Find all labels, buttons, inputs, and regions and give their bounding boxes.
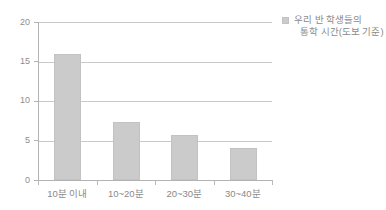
y-tick-label-5: 5 <box>0 136 30 145</box>
y-tick-label-15: 15 <box>0 57 30 66</box>
x-divider-4 <box>272 180 273 185</box>
x-tick-label-3: 30~40분 <box>214 188 273 200</box>
x-tick-label-1: 10~20분 <box>97 188 156 200</box>
x-divider-3 <box>214 180 215 185</box>
y-tick-label-10: 10 <box>0 96 30 105</box>
bar-chart: 20 15 10 5 0 10분 이내 10~20분 20~30분 30~40분 <box>0 0 386 210</box>
y-tick-label-0: 0 <box>0 176 30 185</box>
bar-category-2[interactable] <box>171 135 198 180</box>
bars-layer <box>38 22 272 180</box>
x-tick-label-2: 20~30분 <box>155 188 214 200</box>
chart-legend: 우리 반 학생들의 통학 시간(도보 기준) <box>282 14 384 38</box>
legend-label-line-1: 우리 반 학생들의 <box>294 14 384 26</box>
x-divider-2 <box>155 180 156 185</box>
bar-category-1[interactable] <box>113 122 140 180</box>
y-axis-labels: 20 15 10 5 0 <box>0 0 34 210</box>
x-axis-labels: 10분 이내 10~20분 20~30분 30~40분 <box>38 188 272 204</box>
x-divider-0 <box>38 180 39 185</box>
y-tick-label-20: 20 <box>0 18 30 27</box>
legend-swatch-icon <box>282 17 289 24</box>
x-tick-label-0: 10분 이내 <box>38 188 97 200</box>
bar-category-3[interactable] <box>230 148 257 180</box>
x-divider-1 <box>97 180 98 185</box>
legend-label-line-2: 통학 시간(도보 기준) <box>294 26 384 38</box>
legend-label-group: 우리 반 학생들의 통학 시간(도보 기준) <box>289 14 384 38</box>
bar-category-0[interactable] <box>54 54 81 180</box>
